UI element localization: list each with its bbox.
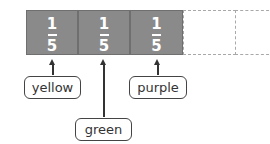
numerator: 1 <box>47 15 57 33</box>
fraction-line <box>152 34 161 36</box>
label-green: green <box>75 118 132 141</box>
arrow-up-icon <box>103 64 105 117</box>
empty-cell-5 <box>235 10 270 55</box>
fraction-cell-2: 15 <box>78 10 130 55</box>
fraction-cell-3: 15 <box>130 10 183 55</box>
empty-cell-4 <box>183 10 236 55</box>
label-purple: purple <box>129 76 187 99</box>
denominator: 5 <box>151 37 161 55</box>
fraction-bar: 15 15 15 <box>26 10 270 55</box>
fraction-cell-1: 15 <box>26 10 78 55</box>
fraction-line <box>48 34 57 36</box>
denominator: 5 <box>47 37 57 55</box>
label-yellow: yellow <box>24 76 81 99</box>
numerator: 1 <box>151 15 161 33</box>
arrow-up-icon <box>52 64 54 75</box>
arrow-up-icon <box>157 64 159 75</box>
denominator: 5 <box>99 37 109 55</box>
numerator: 1 <box>99 15 109 33</box>
fraction-line <box>100 34 109 36</box>
